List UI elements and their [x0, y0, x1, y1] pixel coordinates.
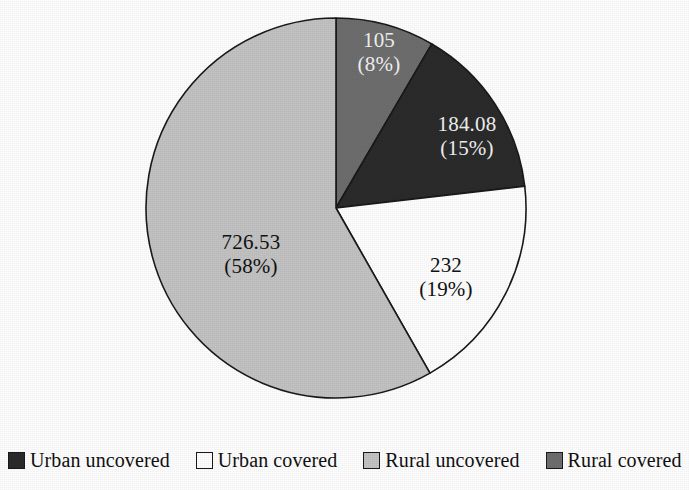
legend-swatch-icon — [546, 452, 563, 469]
legend-label: Rural uncovered — [385, 449, 519, 472]
pie-chart: 105 (8%) 184.08 (15%) 232 (19%) 726.53 (… — [0, 0, 689, 490]
chart-legend: Urban uncovered Urban covered Rural unco… — [0, 440, 689, 480]
legend-swatch-icon — [196, 452, 213, 469]
pie-svg — [0, 0, 689, 425]
legend-item-urban-uncovered[interactable]: Urban uncovered — [8, 449, 170, 472]
legend-item-rural-covered[interactable]: Rural covered — [546, 449, 682, 472]
pie-plot-area: 105 (8%) 184.08 (15%) 232 (19%) 726.53 (… — [0, 0, 689, 425]
legend-swatch-icon — [8, 452, 25, 469]
legend-item-rural-uncovered[interactable]: Rural uncovered — [363, 449, 519, 472]
legend-label: Rural covered — [568, 449, 682, 472]
legend-label: Urban uncovered — [30, 449, 170, 472]
legend-item-urban-covered[interactable]: Urban covered — [196, 449, 338, 472]
legend-swatch-icon — [363, 452, 380, 469]
legend-label: Urban covered — [218, 449, 338, 472]
